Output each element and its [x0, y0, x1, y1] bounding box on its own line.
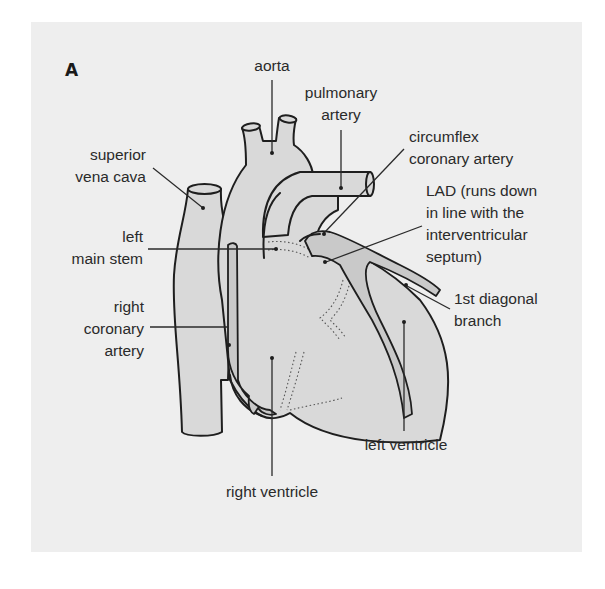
label-right-coronary-line2: coronary: [84, 320, 145, 337]
label-right-coronary-line3: artery: [104, 342, 144, 359]
label-aorta: aorta: [254, 57, 290, 74]
label-right-ventricle: right ventricle: [226, 483, 318, 500]
label-lad-line4: septum): [426, 248, 482, 265]
label-first-diagonal-line2: branch: [454, 312, 501, 329]
label-lad-line1: LAD (runs down: [426, 182, 537, 199]
heart-diagram: A: [0, 0, 605, 589]
label-left-ventricle: left ventricle: [365, 436, 448, 453]
label-superior-vena-cava-line2: vena cava: [75, 168, 146, 185]
label-left-main-stem-line1: left: [122, 228, 143, 245]
label-right-coronary-line1: right: [114, 298, 145, 315]
label-superior-vena-cava-line1: superior: [90, 146, 146, 163]
label-pulmonary-artery-line1: pulmonary: [305, 84, 378, 101]
label-pulmonary-artery-line2: artery: [321, 106, 361, 123]
label-lad-line2: in line with the: [426, 204, 524, 221]
label-circumflex-line2: coronary artery: [409, 150, 513, 167]
label-lad-line3: interventricular: [426, 226, 528, 243]
label-left-main-stem-line2: main stem: [72, 250, 144, 267]
label-first-diagonal-line1: 1st diagonal: [454, 290, 538, 307]
label-circumflex-line1: circumflex: [409, 128, 479, 145]
panel-label: A: [65, 60, 79, 80]
